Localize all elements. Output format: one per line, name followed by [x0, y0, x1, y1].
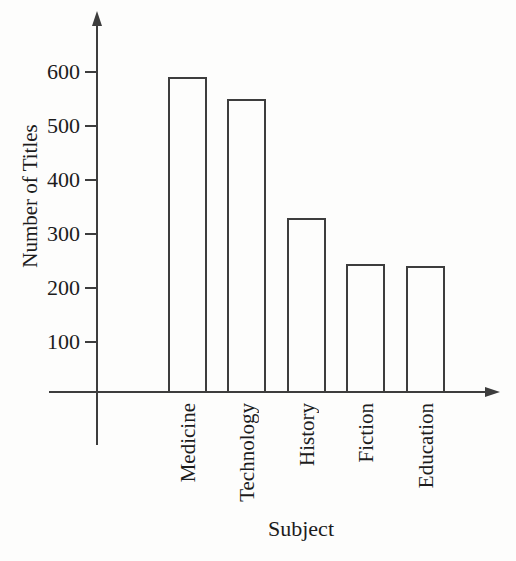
category-label-education: Education [415, 403, 437, 488]
bar-technology [227, 99, 266, 393]
bar-fiction [346, 264, 385, 393]
y-tick-label-100: 100 [30, 330, 80, 354]
category-label-medicine: Medicine [177, 403, 199, 482]
category-label-history: History [296, 403, 318, 466]
y-axis-arrow-icon [92, 11, 102, 26]
y-tick-label-200: 200 [30, 276, 80, 300]
bar-medicine [168, 77, 207, 393]
x-axis-title: Subject [268, 516, 334, 542]
category-label-fiction: Fiction [355, 403, 377, 463]
y-tick-mark-400 [85, 179, 97, 181]
y-tick-mark-600 [85, 71, 97, 73]
bar-chart-figure: 100200300400500600 MedicineTechnologyHis… [0, 0, 516, 561]
page: { "chart_data": { "type": "bar", "title"… [0, 0, 516, 561]
y-tick-mark-100 [85, 341, 97, 343]
y-axis-title: Number of Titles [18, 124, 43, 268]
bar-history [287, 218, 326, 393]
y-axis-line [96, 18, 98, 445]
bar-education [406, 266, 445, 393]
y-tick-mark-500 [85, 125, 97, 127]
category-label-technology: Technology [236, 403, 258, 502]
y-tick-mark-200 [85, 287, 97, 289]
y-tick-mark-300 [85, 233, 97, 235]
x-axis-arrow-icon [485, 387, 500, 397]
y-tick-label-600: 600 [30, 60, 80, 84]
